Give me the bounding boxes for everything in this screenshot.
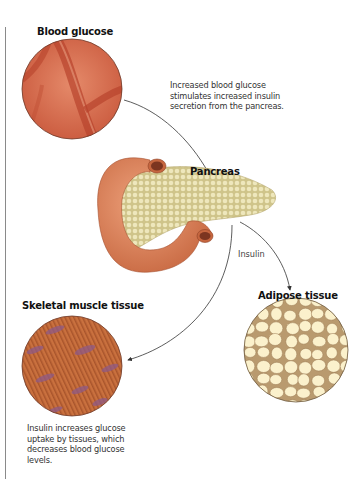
insulin-label: Insulin [238, 249, 265, 259]
fat-cell [342, 387, 354, 400]
fat-cell [241, 373, 253, 386]
fat-cell [269, 322, 283, 335]
blood-vessel-illustration [20, 36, 125, 142]
fat-cell [340, 347, 353, 360]
fat-cell [327, 360, 340, 372]
fat-cell [328, 387, 340, 399]
fat-cell [299, 321, 311, 332]
fat-cell [286, 323, 299, 335]
fat-cell [342, 400, 355, 412]
fat-cell [285, 387, 297, 397]
fat-cell [255, 322, 268, 332]
fat-cell [328, 373, 340, 384]
fat-cell [257, 360, 271, 372]
caption-line: secretion from the pancreas. [170, 101, 284, 112]
caption-line: Increased blood glucose [170, 80, 284, 91]
fat-cell [297, 388, 311, 398]
fat-cell [285, 348, 297, 361]
fat-cell [312, 350, 323, 360]
fat-cell [312, 375, 325, 386]
fat-cell [312, 336, 326, 346]
fat-cell [300, 348, 312, 359]
fat-cell [312, 359, 326, 371]
fat-cell [243, 386, 255, 398]
fat-cell [343, 308, 355, 319]
fat-cell [313, 386, 325, 397]
fat-cell [343, 374, 354, 384]
fat-cell [298, 334, 309, 344]
fat-cell [299, 362, 312, 374]
fat-cell [327, 333, 339, 344]
fat-cell [311, 321, 324, 333]
adipose-tissue-illustration [240, 294, 355, 413]
caption-line: stimulates increased insulin [170, 91, 284, 102]
fat-cell [243, 296, 254, 307]
fat-cell [340, 296, 353, 307]
diagram-canvas [0, 0, 363, 482]
fat-cell [270, 362, 284, 373]
fat-cell [298, 374, 310, 386]
skeletal-muscle-label: Skeletal muscle tissue [22, 300, 144, 311]
fat-cell [255, 400, 268, 413]
fat-cell [245, 400, 256, 411]
fat-cell [339, 335, 351, 346]
fat-cell [255, 336, 269, 347]
pancreas-label: Pancreas [190, 166, 240, 177]
fat-cell [299, 308, 312, 320]
adipose-tissue-label: Adipose tissue [258, 290, 338, 301]
fat-cell [270, 400, 282, 410]
caption-line: decreases blood glucose [27, 444, 126, 455]
fat-cell [340, 360, 354, 372]
fat-cell [284, 361, 297, 374]
fat-cell [315, 400, 327, 411]
fat-cell [257, 347, 269, 357]
top-caption: Increased blood glucose stimulates incre… [170, 80, 284, 112]
bottom-caption: Insulin increases glucose uptake by tiss… [27, 423, 126, 465]
fat-cell [242, 311, 254, 322]
fat-cell [271, 308, 282, 321]
fat-cell [342, 321, 353, 334]
fat-cell [311, 309, 323, 319]
skeletal-muscle-illustration [20, 314, 124, 418]
fat-cell [327, 323, 338, 334]
fat-cell [325, 308, 338, 320]
caption-line: Insulin increases glucose [27, 423, 126, 434]
fat-cell [257, 373, 270, 384]
fat-cell [328, 400, 339, 411]
caption-line: levels. [27, 455, 126, 466]
fat-cell [270, 375, 282, 385]
fat-cell [271, 347, 282, 359]
fat-cell [284, 310, 296, 321]
caption-line: uptake by tissues, which [27, 434, 126, 445]
blood-glucose-label: Blood glucose [37, 26, 113, 37]
fat-cell [257, 385, 268, 397]
fat-cell [286, 335, 298, 347]
fat-cell [287, 374, 298, 385]
fat-cell [244, 347, 255, 357]
fat-cell [326, 347, 337, 359]
fat-cell [269, 333, 282, 345]
